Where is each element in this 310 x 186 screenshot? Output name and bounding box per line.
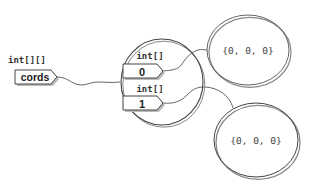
variable-type-label: int[][]	[8, 55, 46, 65]
slot-index-1: 1	[139, 98, 145, 110]
slot-type-label-0: int[]	[136, 51, 163, 61]
reference-arrow-cords	[57, 77, 120, 85]
slot-type-label-1: int[]	[136, 84, 163, 94]
inner-array-contents-1: {0, 0, 0}	[230, 135, 281, 146]
inner-array-contents-0: {0, 0, 0}	[222, 45, 273, 56]
slot-index-0: 0	[139, 66, 145, 78]
variable-name: cords	[21, 71, 50, 83]
memory-diagram: int[][] cords int[] 0 int[] 1 {0, 0, 0} …	[0, 0, 310, 186]
reference-arrow-slot-1	[163, 87, 233, 108]
